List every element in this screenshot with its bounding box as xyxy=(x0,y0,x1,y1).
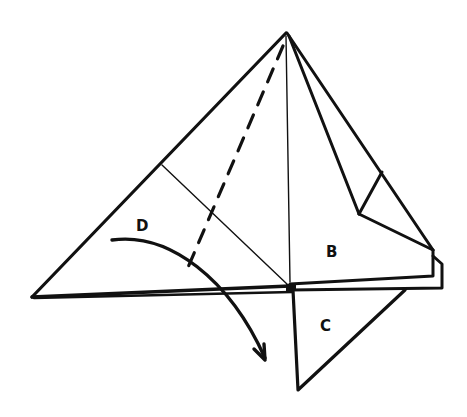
label-b: B xyxy=(326,243,337,261)
vertical-crease xyxy=(286,36,290,282)
main-flap-outline xyxy=(32,33,442,298)
right-step-inner xyxy=(290,250,433,284)
junction-mark xyxy=(286,284,296,291)
label-c: C xyxy=(320,317,331,335)
left-outer-edge xyxy=(32,33,286,297)
inner-flap-cross xyxy=(359,172,382,214)
flap-c-outline xyxy=(293,290,405,390)
flap-c xyxy=(293,290,405,390)
dashed-valley-fold xyxy=(186,46,283,272)
right-step-outer xyxy=(290,256,442,290)
fold-arrow-curve xyxy=(112,239,265,358)
right-outer-edge xyxy=(287,33,433,250)
fold-arrow xyxy=(112,239,265,360)
label-d: D xyxy=(136,217,148,235)
origami-diagram: D B C xyxy=(0,0,467,417)
